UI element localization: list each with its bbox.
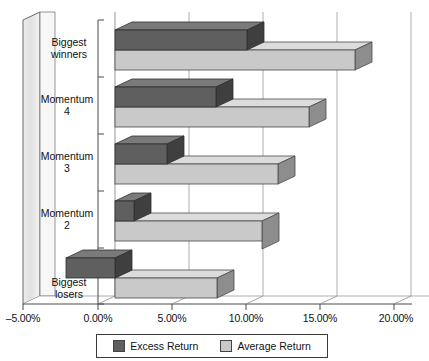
plot-area: Biggest winners Momentum 4 Momentum 3 Mo… [0,0,429,361]
xtick-label-10: 10.00% [215,312,277,324]
xtick-label-minus-5: –5.00% [0,312,52,324]
category-label-line: 4 [36,105,98,117]
category-label-biggest-winners: Biggest winners [40,36,98,60]
category-label-line: Momentum [36,93,98,105]
category-label-line: Biggest [40,276,98,288]
xtick-label-5: 5.00% [143,312,201,324]
xtick-label-15: 15.00% [289,312,351,324]
chart-legend: Excess Return Average Return [96,334,328,358]
category-label-line: 2 [36,219,98,231]
category-label-line: winners [40,48,98,60]
bar-chart: Biggest winners Momentum 4 Momentum 3 Mo… [0,0,429,361]
bar-excess-return-momentum-3 [115,136,184,164]
xtick-label-0: 0.00% [69,312,127,324]
category-label-line: Momentum [36,207,98,219]
category-label-line: Biggest [40,36,98,48]
bar-excess-return-biggest-winners [115,22,264,50]
category-label-momentum-4: Momentum 4 [36,93,98,117]
bar-excess-return-biggest-losers [66,250,132,278]
legend-entry-excess-return[interactable]: Excess Return [113,340,198,352]
category-label-momentum-3: Momentum 3 [36,150,98,174]
legend-label-average-return: Average Return [237,340,310,352]
category-label-line: Momentum [36,150,98,162]
legend-swatch-icon-average-return [220,340,232,352]
legend-swatch-icon-excess-return [113,340,125,352]
category-label-line: 3 [36,162,98,174]
category-label-line: losers [40,288,98,300]
bar-excess-return-momentum-4 [115,79,233,107]
category-label-momentum-2: Momentum 2 [36,207,98,231]
bar-average-return-biggest-losers [115,270,234,298]
legend-label-excess-return: Excess Return [130,340,198,352]
category-label-biggest-losers: Biggest losers [40,276,98,300]
legend-entry-average-return[interactable]: Average Return [220,340,310,352]
xtick-label-20: 20.00% [365,312,427,324]
value-axis [23,304,394,310]
